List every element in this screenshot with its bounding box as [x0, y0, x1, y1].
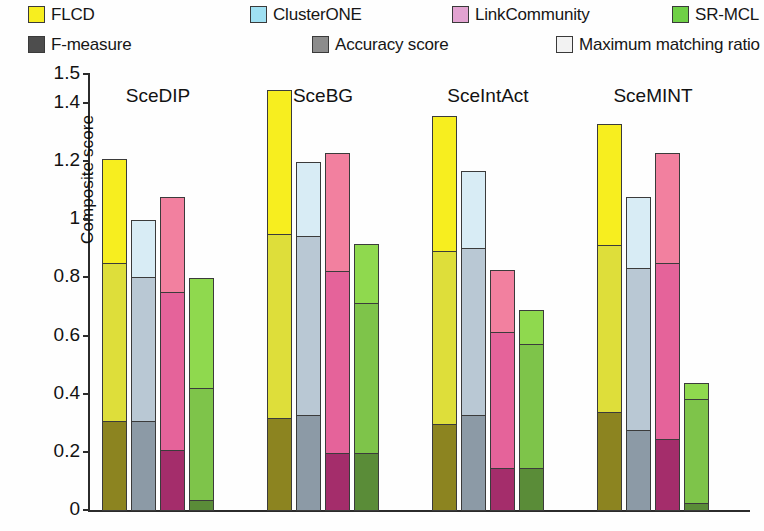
- bar-segment-accuracy-score: [296, 236, 321, 416]
- bar-scedip-flcd[interactable]: [102, 159, 127, 510]
- x-tick-label-scebg: SceBG: [293, 86, 353, 105]
- legend-label: LinkCommunity: [475, 6, 590, 23]
- bar-scebg-clusterone[interactable]: [296, 162, 321, 510]
- legend-entry-flcd[interactable]: FLCD: [28, 6, 95, 23]
- y-tick-mark: [83, 276, 90, 278]
- bar-segment-f-measure: [461, 415, 486, 511]
- bar-segment-f-measure: [131, 421, 156, 511]
- y-tick-mark: [83, 335, 90, 337]
- bar-segment-accuracy-score: [519, 344, 544, 469]
- legend-label: Maximum matching ratio: [579, 36, 760, 53]
- legend-entry-maximum-matching-ratio[interactable]: Maximum matching ratio: [556, 36, 760, 53]
- bar-segment-f-measure: [597, 412, 622, 511]
- color-swatch-icon: [452, 6, 469, 23]
- legend-entry-sr-mcl[interactable]: SR-MCL: [672, 6, 759, 23]
- legend-label: Accuracy score: [335, 36, 448, 53]
- x-tick-label-scedip: SceDIP: [126, 86, 190, 105]
- bar-segment-maximum-matching-ratio: [461, 171, 486, 249]
- color-swatch-icon: [672, 6, 689, 23]
- y-tick-mark: [83, 218, 90, 220]
- y-tick-mark: [83, 509, 90, 511]
- bar-scebg-linkcommunity[interactable]: [325, 153, 350, 510]
- bar-scemint-linkcommunity[interactable]: [655, 153, 680, 510]
- bar-segment-accuracy-score: [267, 234, 292, 420]
- bar-segment-maximum-matching-ratio: [267, 90, 292, 235]
- bar-segment-accuracy-score: [131, 277, 156, 422]
- legend-entry-f-measure[interactable]: F-measure: [28, 36, 131, 53]
- color-swatch-icon: [556, 36, 573, 53]
- y-tick-label: 1: [69, 208, 80, 227]
- bar-segment-maximum-matching-ratio: [626, 197, 651, 270]
- bar-segment-accuracy-score: [626, 268, 651, 431]
- bar-segment-accuracy-score: [160, 292, 185, 452]
- bar-segment-accuracy-score: [597, 245, 622, 414]
- bar-sceintact-clusterone[interactable]: [461, 171, 486, 510]
- y-tick-mark: [83, 73, 90, 75]
- legend-label: ClusterONE: [273, 6, 362, 23]
- bar-segment-accuracy-score: [354, 303, 379, 454]
- bar-group-scebg: [267, 74, 379, 510]
- bar-segment-f-measure: [189, 500, 214, 512]
- y-tick-mark: [83, 393, 90, 395]
- bar-sceintact-linkcommunity[interactable]: [490, 270, 515, 510]
- bar-segment-f-measure: [626, 430, 651, 511]
- bar-scedip-sr-mcl[interactable]: [189, 278, 214, 510]
- bar-segment-f-measure: [102, 421, 127, 511]
- bar-segment-maximum-matching-ratio: [189, 278, 214, 388]
- legend-label: FLCD: [51, 6, 95, 23]
- y-axis-title: Composite score: [78, 115, 98, 244]
- bar-segment-f-measure: [490, 468, 515, 512]
- y-tick-mark: [83, 160, 90, 162]
- bar-group-scedip: [102, 74, 214, 510]
- bar-segment-f-measure: [655, 439, 680, 512]
- bar-segment-maximum-matching-ratio: [354, 244, 379, 305]
- bar-segment-f-measure: [160, 450, 185, 511]
- bar-scemint-sr-mcl[interactable]: [684, 383, 709, 510]
- y-tick-mark: [83, 102, 90, 104]
- plot-area: Composite score 00.20.40.60.811.21.41.5 …: [88, 74, 750, 512]
- bar-group-scemint: [597, 74, 709, 510]
- y-tick-label: 1.2: [54, 150, 80, 169]
- bar-segment-accuracy-score: [684, 399, 709, 504]
- bar-segment-maximum-matching-ratio: [160, 197, 185, 293]
- color-swatch-icon: [312, 36, 329, 53]
- bar-segment-accuracy-score: [490, 332, 515, 469]
- y-tick-label: 0.6: [54, 325, 80, 344]
- legend-entry-linkcommunity[interactable]: LinkCommunity: [452, 6, 590, 23]
- bar-scebg-flcd[interactable]: [267, 90, 292, 510]
- bar-segment-f-measure: [432, 424, 457, 511]
- y-tick-label: 0.4: [54, 383, 80, 402]
- bar-segment-maximum-matching-ratio: [490, 270, 515, 334]
- bar-sceintact-sr-mcl[interactable]: [519, 310, 544, 510]
- bar-segment-f-measure: [519, 468, 544, 512]
- bar-segment-maximum-matching-ratio: [684, 383, 709, 400]
- y-tick-label: 0.2: [54, 441, 80, 460]
- legend-label: F-measure: [51, 36, 131, 53]
- legend-entry-accuracy-score[interactable]: Accuracy score: [312, 36, 448, 53]
- y-tick-mark: [83, 451, 90, 453]
- bar-segment-f-measure: [296, 415, 321, 511]
- bar-segment-accuracy-score: [461, 248, 486, 417]
- bar-segment-maximum-matching-ratio: [597, 124, 622, 246]
- legend-entry-clusterone[interactable]: ClusterONE: [250, 6, 362, 23]
- color-swatch-icon: [28, 6, 45, 23]
- bar-segment-maximum-matching-ratio: [519, 310, 544, 345]
- bar-segment-accuracy-score: [325, 271, 350, 454]
- bar-segment-f-measure: [267, 418, 292, 511]
- x-tick-label-sceintact: SceIntAct: [447, 86, 528, 105]
- bar-scebg-sr-mcl[interactable]: [354, 244, 379, 510]
- bar-segment-maximum-matching-ratio: [102, 159, 127, 264]
- y-tick-label: 0.8: [54, 266, 80, 285]
- bar-segment-maximum-matching-ratio: [655, 153, 680, 263]
- bar-scemint-flcd[interactable]: [597, 124, 622, 510]
- x-tick-label-scemint: SceMINT: [613, 86, 692, 105]
- y-tick-label: 1.4: [54, 92, 80, 111]
- bar-segment-maximum-matching-ratio: [131, 220, 156, 278]
- y-tick-label: 1.5: [54, 63, 80, 82]
- bar-scedip-linkcommunity[interactable]: [160, 197, 185, 510]
- chart-legend: FLCDClusterONELinkCommunitySR-MCLF-measu…: [0, 0, 764, 62]
- bar-scedip-clusterone[interactable]: [131, 220, 156, 510]
- bar-scemint-clusterone[interactable]: [626, 197, 651, 510]
- bar-sceintact-flcd[interactable]: [432, 116, 457, 510]
- color-swatch-icon: [250, 6, 267, 23]
